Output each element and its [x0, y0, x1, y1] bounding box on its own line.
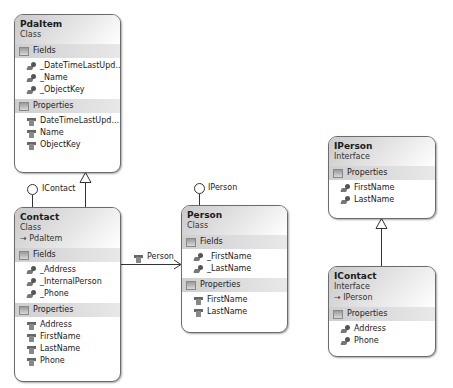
field-icon — [27, 278, 37, 287]
field-item[interactable]: _DateTimeLastUpd... — [15, 60, 120, 72]
section-header-properties[interactable]: Properties — [329, 166, 435, 180]
property-icon — [194, 296, 204, 305]
section-header-properties[interactable]: Properties — [15, 303, 120, 317]
field-item[interactable]: _InternalPerson — [15, 276, 120, 288]
property-item[interactable]: FirstName — [329, 182, 435, 194]
field-item[interactable]: _FirstName — [182, 251, 287, 263]
field-item[interactable]: _Address — [15, 264, 120, 276]
property-item[interactable]: FirstName — [182, 294, 287, 306]
section-header-properties[interactable]: Properties — [329, 307, 435, 321]
class-header: PdaItem Class — [15, 15, 120, 44]
lollipop-label-icontact: IContact — [42, 184, 75, 193]
class-box-person[interactable]: Person Class Fields _FirstName _LastName… — [181, 205, 288, 333]
class-box-contact[interactable]: Contact Class → PdaItem Fields _Address … — [14, 207, 121, 382]
interface-header: IPerson Interface — [329, 137, 435, 166]
property-icon — [194, 308, 204, 317]
interface-property-icon — [341, 196, 351, 205]
inheritance-arrow-icon — [79, 172, 92, 183]
class-name: PdaItem — [20, 19, 115, 30]
property-icon — [27, 345, 37, 354]
collapse-toggle-icon[interactable] — [19, 251, 29, 260]
property-item[interactable]: Name — [15, 127, 120, 139]
field-icon — [27, 74, 37, 83]
property-item[interactable]: LastName — [182, 306, 287, 318]
base-interface: → IPerson — [334, 292, 430, 303]
property-item[interactable]: Phone — [329, 335, 435, 347]
field-item[interactable]: _Name — [15, 72, 120, 84]
class-header: Contact Class → PdaItem — [15, 208, 120, 248]
property-icon — [134, 254, 144, 263]
section-header-fields[interactable]: Fields — [15, 248, 120, 262]
property-item[interactable]: LastName — [329, 194, 435, 206]
association-line — [120, 264, 180, 265]
interface-property-icon — [341, 184, 351, 193]
field-icon — [194, 253, 204, 262]
property-icon — [27, 321, 37, 330]
class-header: Person Class — [182, 206, 287, 235]
property-item[interactable]: Address — [15, 319, 120, 331]
section-header-fields[interactable]: Fields — [15, 44, 120, 58]
class-kind: Class — [20, 223, 115, 233]
property-item[interactable]: ObjectKey — [15, 139, 120, 151]
interface-box-iperson[interactable]: IPerson Interface Properties FirstName L… — [328, 136, 436, 219]
field-icon — [194, 265, 204, 274]
interface-name: IContact — [334, 271, 430, 282]
class-kind: Class — [187, 221, 282, 231]
inheritance-line-icontact-iperson — [381, 228, 382, 266]
collapse-toggle-icon[interactable] — [186, 238, 196, 247]
property-icon — [27, 129, 37, 138]
field-item[interactable]: _Phone — [15, 288, 120, 300]
collapse-toggle-icon[interactable] — [19, 306, 29, 315]
property-item[interactable]: DateTimeLastUpd... — [15, 115, 120, 127]
interface-kind: Interface — [334, 282, 430, 292]
field-item[interactable]: _ObjectKey — [15, 84, 120, 96]
class-box-pdaitem[interactable]: PdaItem Class Fields _DateTimeLastUpd...… — [14, 14, 121, 173]
interface-box-icontact[interactable]: IContact Interface → IPerson Properties … — [328, 266, 436, 357]
collapse-toggle-icon[interactable] — [186, 281, 196, 290]
class-name: Contact — [20, 212, 115, 223]
property-icon — [27, 141, 37, 150]
interface-header: IContact Interface → IPerson — [329, 267, 435, 307]
property-icon — [27, 333, 37, 342]
field-icon — [27, 62, 37, 71]
property-item[interactable]: FirstName — [15, 331, 120, 343]
lollipop-label-iperson: IPerson — [208, 183, 237, 192]
property-item[interactable]: Address — [329, 323, 435, 335]
collapse-toggle-icon[interactable] — [333, 310, 343, 319]
field-icon — [27, 86, 37, 95]
collapse-toggle-icon[interactable] — [19, 47, 29, 56]
class-name: Person — [187, 210, 282, 221]
section-header-properties[interactable]: Properties — [15, 99, 120, 113]
field-item[interactable]: _LastName — [182, 263, 287, 275]
collapse-toggle-icon[interactable] — [333, 169, 343, 178]
association-label: Person — [147, 252, 174, 261]
class-kind: Class — [20, 30, 115, 40]
section-header-properties[interactable]: Properties — [182, 278, 287, 292]
collapse-toggle-icon[interactable] — [19, 102, 29, 111]
field-icon — [27, 266, 37, 275]
property-icon — [27, 117, 37, 126]
interface-property-icon — [341, 325, 351, 334]
inheritance-line-contact-pdaitem — [85, 182, 86, 208]
interface-kind: Interface — [334, 152, 430, 162]
property-item[interactable]: LastName — [15, 343, 120, 355]
field-icon — [27, 290, 37, 299]
section-header-fields[interactable]: Fields — [182, 235, 287, 249]
base-class: → PdaItem — [20, 233, 115, 244]
interface-property-icon — [341, 337, 351, 346]
property-item[interactable]: Phone — [15, 355, 120, 367]
inheritance-arrow-icon — [375, 218, 388, 229]
property-icon — [27, 357, 37, 366]
interface-lollipop-icon — [27, 184, 38, 195]
interface-lollipop-icon — [194, 183, 205, 194]
interface-name: IPerson — [334, 141, 430, 152]
